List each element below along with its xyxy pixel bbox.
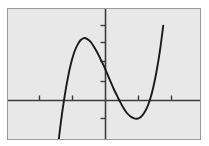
graph-figure: [0, 0, 209, 146]
plot-area-background: [8, 9, 201, 140]
plot-canvas: [0, 0, 209, 146]
